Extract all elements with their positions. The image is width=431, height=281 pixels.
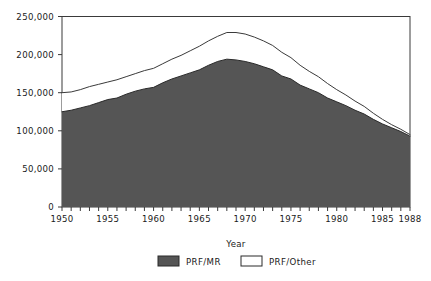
x-axis-tick-label: 1975: [279, 214, 302, 224]
legend-label-prf-other: PRF/Other: [269, 257, 316, 267]
x-axis-title: Year: [225, 239, 246, 249]
x-axis-tick-label: 1985: [371, 214, 394, 224]
y-axis-tick-label: 150,000: [16, 88, 54, 98]
y-axis-tick-label: 0: [48, 202, 54, 212]
x-axis-tick-label: 1965: [188, 214, 211, 224]
x-axis-tick-label: 1960: [142, 214, 165, 224]
legend-swatch-prf-mr: [158, 256, 179, 266]
x-axis-tick-label: 1950: [50, 214, 73, 224]
x-axis-tick-label: 1980: [325, 214, 348, 224]
x-axis-tick-label: 1988: [398, 214, 421, 224]
legend-item-prf-other: PRF/Other: [241, 256, 316, 267]
legend-item-prf-mr: PRF/MR: [158, 256, 221, 267]
legend-label-prf-mr: PRF/MR: [186, 257, 221, 267]
chart-svg: 050,000100,000150,000200,000250,000 1950…: [0, 0, 431, 281]
legend-swatch-prf-other: [241, 256, 262, 266]
y-axis-tick-label: 250,000: [16, 12, 54, 22]
y-axis-tick-label: 100,000: [16, 126, 54, 136]
y-axis-tick-label: 200,000: [16, 50, 54, 60]
y-axis-tick-label: 50,000: [22, 164, 54, 174]
x-axis-tick-label: 1955: [96, 214, 119, 224]
chart-figure: 050,000100,000150,000200,000250,000 1950…: [0, 0, 431, 281]
x-axis-tick-label: 1970: [234, 214, 257, 224]
